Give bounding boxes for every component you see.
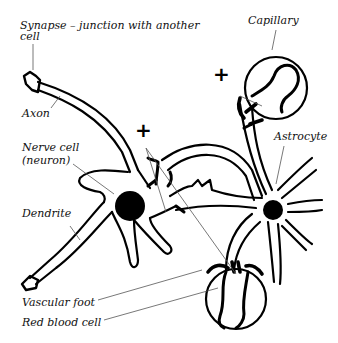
astrocyte-nucleus-shape	[263, 200, 283, 220]
plus-marker-center: +	[135, 120, 152, 140]
plus-to-bottom-capillary-line	[146, 148, 236, 274]
astrocyte-label: Astrocyte	[274, 131, 327, 142]
nerve-cell-label: Nerve cell	[22, 142, 79, 153]
neuron-nucleus-shape	[115, 191, 145, 221]
astrocyte-leader	[276, 146, 284, 184]
top-capillary-shape	[245, 57, 307, 119]
dendrite-label: Dendrite	[22, 208, 71, 219]
synapse-label-continued: cell	[20, 31, 40, 42]
red-blood-cell-leader	[104, 288, 218, 320]
flow-arrows	[148, 124, 252, 212]
astrocyte-right-processes	[278, 158, 322, 250]
nerve-cell-label-continued: (neuron)	[22, 155, 70, 166]
red-blood-cell-label: Red blood cell	[22, 317, 101, 328]
bottom-red-blood-cell-shape	[219, 272, 226, 328]
diagram-artwork	[0, 0, 338, 343]
plus-to-neuron-line	[146, 148, 166, 212]
plus-marker-top-right: +	[213, 64, 230, 84]
vascular-foot-leader	[98, 270, 202, 300]
vascular-foot-label: Vascular foot	[22, 297, 95, 308]
neuron-shape	[22, 170, 176, 290]
bottom-capillary-shape	[206, 269, 266, 329]
capillary-leader	[272, 30, 276, 50]
synapse-label: Synapse – junction with another	[20, 20, 199, 31]
neuron-astrocyte-diagram: Synapse – junction with another cell Cap…	[0, 0, 338, 343]
axon-label: Axon	[22, 108, 50, 119]
capillary-label: Capillary	[248, 15, 299, 26]
